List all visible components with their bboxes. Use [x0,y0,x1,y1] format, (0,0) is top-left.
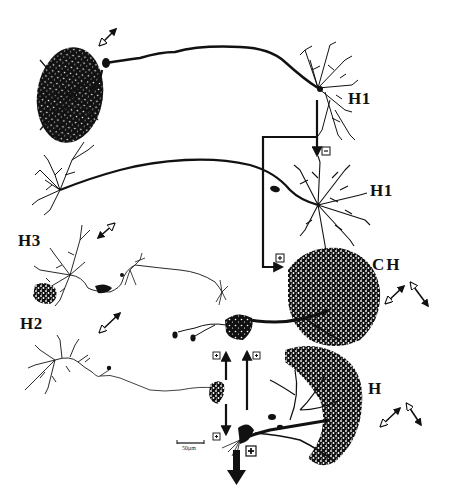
ch-soma-1 [172,332,177,339]
plus-sign-box-h1-to-ch [276,254,284,262]
scale-bar [177,440,204,444]
h3-mid-arbor [125,253,145,285]
h2-soma [107,366,111,370]
h-soma-1 [268,414,276,420]
ch-proximal-dense-patch [225,314,253,340]
plus-sign-box-output [246,446,256,456]
direction-arrow-h2 [100,313,120,332]
h-soma-2 [277,425,283,429]
direction-arrow-h1-top [100,29,116,45]
vertical-connection-arrows [226,352,247,434]
h3-soma [120,273,124,277]
h2-axon [92,372,215,391]
h-proximal-dense-patch [238,424,254,444]
plus-sign-box-h2-to-ch [213,352,220,359]
ch-dendritic-field [288,248,380,346]
h1-middle-right-arbor [294,156,370,252]
ch-soma-2 [190,335,195,342]
neuron-circuit-figure [0,0,449,500]
h3-neuron [33,225,228,306]
cell-label-h3: H3 [18,232,41,249]
h-dendritic-field [285,346,362,465]
h1-middle-left-arbor [32,142,94,215]
cell-label-h2: H2 [20,315,43,332]
direction-arrow-h3 [98,224,114,238]
minus-sign-box-h1-to-h1 [322,147,330,155]
plus-sign-box-h-to-ch [253,352,260,359]
h3-left-dense-patch [33,283,57,304]
h3-right-arbor [216,280,228,305]
scale-bar-label: 50μm [182,445,196,451]
h2-right-dense-patch [209,381,224,404]
cell-label-h1-top: H1 [348,90,371,107]
h2-left-arbor [25,335,92,394]
h2-neuron [25,335,224,404]
h3-axon [70,265,222,292]
h-neuron [222,346,362,465]
ch-stalks [178,324,226,336]
direction-arrow-h-second [407,404,421,425]
cell-label-h1-middle: H1 [370,182,393,199]
cell-label-ch: CH [372,256,402,273]
h1-middle-axon [60,160,318,205]
h1-middle-soma [269,185,280,193]
cell-label-h: H [368,380,382,397]
h1-connector-lines [263,100,317,267]
output-arrow [227,450,246,485]
direction-arrow-ch [386,283,428,306]
h1-top-neuron [31,42,358,147]
plus-sign-box-h2-to-h [213,433,220,440]
h1-top-axon [90,47,318,90]
direction-arrow-h [381,408,400,426]
h1-middle-neuron [32,142,370,252]
